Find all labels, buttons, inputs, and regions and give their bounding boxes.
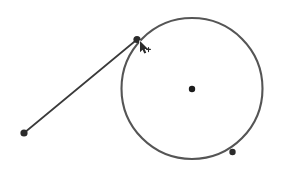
canvas-background [0, 0, 282, 174]
center-point[interactable] [189, 86, 195, 92]
geometry-app-root: Geometry construction canvas [0, 0, 282, 174]
point-on-circle-lower-right[interactable] [229, 149, 235, 155]
geometry-canvas[interactable] [0, 0, 282, 174]
free-endpoint-point[interactable] [20, 129, 27, 136]
